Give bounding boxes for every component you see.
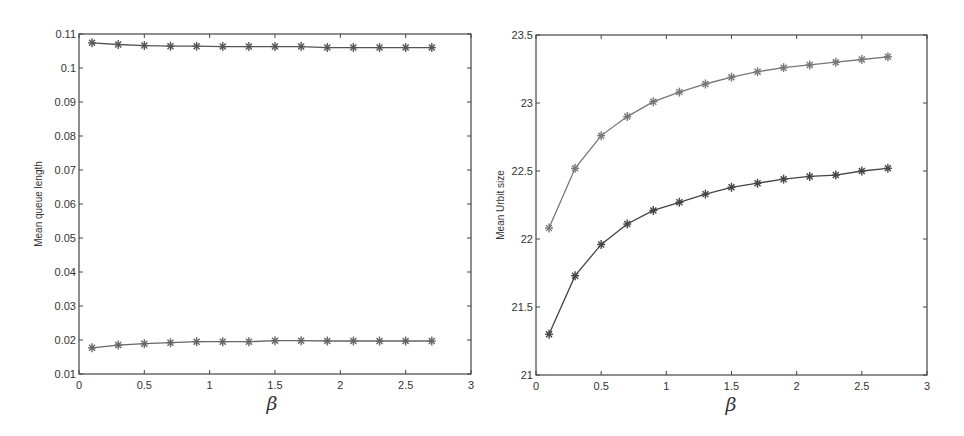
y-tick-label: 0.02 [55,334,76,346]
x-tick-label: 0 [76,379,82,391]
star-marker-icon [88,38,96,47]
x-tick-label: 2.5 [398,379,413,391]
star-marker-icon [623,220,631,229]
star-marker-icon [271,336,279,345]
x-tick-label: 3 [468,379,474,391]
star-marker-icon [193,42,201,51]
x-tick-label: 0.5 [137,379,152,391]
star-marker-icon [402,43,410,52]
plot-frame [79,34,471,374]
star-marker-icon [166,338,174,347]
star-marker-icon [166,42,174,51]
star-marker-icon [571,271,579,280]
star-marker-icon [649,97,657,106]
y-tick-label: 0.06 [55,198,76,210]
y-tick-label: 22 [521,233,533,245]
star-marker-icon [114,40,122,49]
x-tick-label: 2 [794,380,800,392]
x-tick-label: 1.5 [267,379,282,391]
x-tick-label: 2.5 [854,380,869,392]
star-marker-icon [806,60,814,69]
star-marker-icon [245,337,253,346]
series-line-lower [549,168,888,334]
x-tick-label: 0.5 [594,380,609,392]
star-marker-icon [271,42,279,51]
star-marker-icon [754,179,762,188]
star-marker-icon [675,198,683,207]
y-tick-label: 0.04 [55,266,76,278]
y-axis-label: Mean queue length [33,161,44,247]
star-marker-icon [349,43,357,52]
star-marker-icon [323,337,331,346]
y-tick-label: 0.08 [55,130,76,142]
star-marker-icon [140,41,148,50]
star-marker-icon [884,164,892,173]
star-marker-icon [728,73,736,82]
star-marker-icon [597,131,605,140]
y-tick-label: 0.03 [55,300,76,312]
star-marker-icon [297,42,305,51]
star-marker-icon [545,330,553,339]
y-tick-label: 23 [521,97,533,109]
x-tick-label: 1.5 [724,380,739,392]
star-marker-icon [323,43,331,52]
star-marker-icon [701,190,709,199]
y-tick-label: 21.5 [512,301,533,313]
star-marker-icon [193,337,201,346]
star-marker-icon [428,337,436,346]
star-marker-icon [428,43,436,52]
star-marker-icon [219,337,227,346]
plot-canvas-right: 00.511.522.532121.52222.52323.5Mean Urbi… [482,0,964,436]
x-tick-label: 0 [533,380,539,392]
star-marker-icon [728,183,736,192]
y-tick-label: 0.07 [55,164,76,176]
star-marker-icon [884,52,892,61]
star-marker-icon [349,337,357,346]
star-marker-icon [88,343,96,352]
x-axis-label-beta: β [725,393,737,415]
star-marker-icon [245,42,253,51]
star-marker-icon [114,341,122,350]
x-tick-label: 1 [207,379,213,391]
x-tick-label: 2 [337,379,343,391]
star-marker-icon [806,172,814,181]
y-tick-label: 0.11 [55,28,76,40]
star-marker-icon [858,167,866,176]
y-tick-label: 21 [521,369,533,381]
plot-frame [536,35,927,375]
star-marker-icon [376,337,384,346]
star-marker-icon [219,42,227,51]
star-marker-icon [754,67,762,76]
x-tick-label: 1 [663,380,669,392]
star-marker-icon [858,55,866,64]
star-marker-icon [649,206,657,215]
plot-canvas-left: 00.511.522.530.010.020.030.040.050.060.0… [0,0,482,436]
star-marker-icon [780,175,788,184]
star-marker-icon [832,171,840,180]
y-tick-label: 0.09 [55,96,76,108]
star-marker-icon [701,79,709,88]
star-marker-icon [623,112,631,121]
star-marker-icon [545,224,553,233]
star-marker-icon [832,58,840,67]
y-tick-label: 23.5 [512,29,533,41]
y-tick-label: 0.1 [61,62,76,74]
star-marker-icon [297,336,305,345]
y-tick-label: 0.05 [55,232,76,244]
star-marker-icon [780,63,788,72]
y-axis-label: Mean Urbit size [495,170,506,240]
star-marker-icon [675,88,683,97]
star-marker-icon [571,164,579,173]
star-marker-icon [376,43,384,52]
x-tick-label: 3 [924,380,930,392]
chart-mean-orbit-size: 00.511.522.532121.52222.52323.5Mean Urbi… [482,0,964,436]
y-tick-label: 0.01 [55,368,76,380]
series-line-upper [549,57,888,228]
x-axis-label-beta: β [266,392,278,414]
chart-mean-queue-length: 00.511.522.530.010.020.030.040.050.060.0… [0,0,482,436]
star-marker-icon [140,339,148,348]
star-marker-icon [597,240,605,249]
star-marker-icon [402,337,410,346]
y-tick-label: 22.5 [512,165,533,177]
